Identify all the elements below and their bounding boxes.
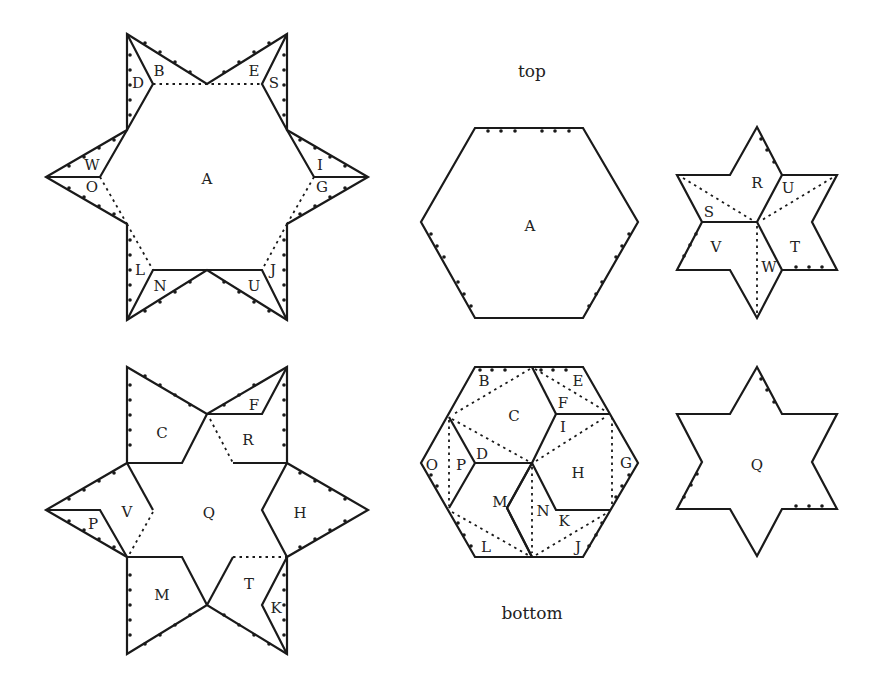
label-Q: Q: [751, 456, 763, 474]
label-D: D: [132, 74, 144, 92]
label-K: K: [558, 512, 570, 530]
label-U: U: [248, 277, 261, 295]
label-W: W: [761, 258, 777, 276]
label-N: N: [153, 277, 166, 295]
label-S: S: [269, 74, 279, 92]
label-R: R: [242, 431, 254, 449]
label-M: M: [492, 493, 507, 511]
label-W: W: [84, 156, 100, 174]
folding-diagram: A B D E S W O I G L N U J top bottom A: [0, 0, 877, 690]
label-J: J: [573, 538, 581, 556]
label-V: V: [710, 238, 723, 256]
label-I: I: [317, 156, 323, 174]
label-C: C: [508, 407, 519, 425]
label-V: V: [121, 503, 134, 521]
label-T: T: [244, 575, 254, 593]
label-P: P: [88, 515, 98, 533]
label-C: C: [156, 424, 167, 442]
hexagon-top: A: [421, 128, 638, 318]
label-F: F: [249, 396, 259, 414]
label-S: S: [704, 203, 714, 221]
label-I: I: [560, 418, 566, 436]
label-G: G: [620, 454, 632, 472]
hexagon-bottom: B E C F I O P D H G M N K L J: [421, 367, 638, 557]
label-L: L: [481, 538, 491, 556]
label-O: O: [426, 456, 438, 474]
label-Q: Q: [203, 504, 215, 522]
label-H: H: [571, 464, 584, 482]
label-P: P: [456, 456, 466, 474]
label-D: D: [476, 445, 488, 463]
label-A: A: [201, 170, 213, 188]
label-H: H: [293, 504, 306, 522]
top-star-net: A B D E S W O I G L N U J: [46, 34, 368, 320]
bottom-star-net: C F R V P Q H M T K: [46, 367, 368, 654]
caption-bottom: bottom: [501, 603, 562, 623]
label-R: R: [751, 174, 763, 192]
label-T: T: [790, 238, 800, 256]
label-B: B: [478, 372, 489, 390]
label-M: M: [154, 586, 169, 604]
label-F: F: [558, 394, 568, 412]
small-star-bottom: Q: [677, 367, 837, 556]
caption-top: top: [518, 61, 546, 81]
label-A-hex: A: [524, 217, 536, 235]
label-N: N: [536, 502, 549, 520]
label-E: E: [573, 372, 584, 390]
label-B: B: [153, 62, 164, 80]
small-star-top: R U S V T W: [677, 127, 837, 318]
label-O: O: [86, 178, 98, 196]
label-E: E: [249, 62, 260, 80]
label-J: J: [268, 261, 276, 279]
label-L: L: [135, 261, 145, 279]
label-G: G: [316, 178, 328, 196]
label-K: K: [270, 599, 282, 617]
label-U: U: [782, 179, 795, 197]
